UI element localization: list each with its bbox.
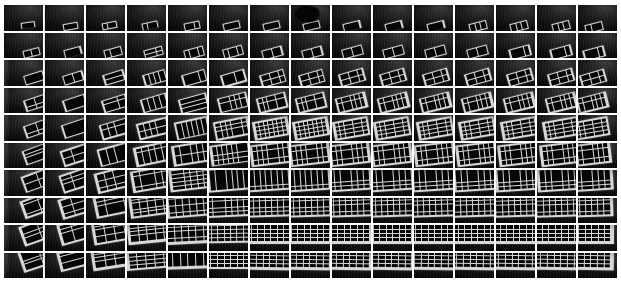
scene-background [250,33,289,59]
scene-background [496,143,535,169]
thumbnail-cell [578,225,617,251]
scene-background [537,225,576,251]
thumbnail-cell [127,253,166,279]
scene-background [127,60,166,86]
scene-background [373,143,412,169]
thumbnail-cell [537,33,576,59]
scene-background [455,143,494,169]
scene-background [332,143,371,169]
thumbnail-cell [4,170,43,196]
thumbnail-cell [4,225,43,251]
thumbnail-cell [250,60,289,86]
scene-background [373,60,412,86]
scene-background [578,170,617,196]
scene-background [414,253,453,279]
thumbnail-cell [209,60,248,86]
scene-background [86,60,125,86]
scene-background [127,115,166,141]
column-seam-divider [44,5,45,278]
scene-background [455,170,494,196]
thumbnail-cell [291,170,330,196]
scene-background [291,198,330,224]
scene-background [127,198,166,224]
scene-background [455,33,494,59]
thumbnail-cell [250,33,289,59]
thumbnail-cell [250,225,289,251]
scene-background [250,170,289,196]
thumbnail-cell [578,5,617,31]
scene-background [168,143,207,169]
thumbnail-cell [537,88,576,114]
light-streak [4,143,9,169]
thumbnail-cell [168,115,207,141]
scene-background [373,225,412,251]
scene-background [496,225,535,251]
thumbnail-cell [496,60,535,86]
thumbnail-cell [250,5,289,31]
thumbnail-cell [4,198,43,224]
scene-background [414,198,453,224]
scene-background [250,198,289,224]
thumbnail-cell [496,225,535,251]
scene-background [127,225,166,251]
scene-background [414,5,453,31]
thumbnail-cell [373,33,412,59]
thumbnail-cell [86,5,125,31]
thumbnail-cell [455,88,494,114]
thumbnail-cell [373,88,412,114]
thumbnail-cell [127,143,166,169]
thumbnail-cell [4,88,43,114]
thumbnail-cell [578,33,617,59]
thumbnail-cell [127,33,166,59]
thumbnail-cell [127,225,166,251]
light-streak [4,60,9,86]
thumbnail-cell [4,5,43,31]
scene-background [578,5,617,31]
thumbnail-cell [86,225,125,251]
thumbnail-cell [455,170,494,196]
thumbnail-cell [537,198,576,224]
scene-background [168,115,207,141]
thumbnail-cell [291,88,330,114]
scene-background [496,5,535,31]
scene-background [45,115,84,141]
scene-background [127,5,166,31]
thumbnail-cell [45,115,84,141]
scene-background [455,115,494,141]
scene-background [209,115,248,141]
scene-background [332,115,371,141]
scene-background [45,143,84,169]
thumbnail-cell [127,60,166,86]
scene-background [250,225,289,251]
scene-background [209,253,248,279]
scene-background [168,170,207,196]
thumbnail-cell [127,198,166,224]
scene-background [127,253,166,279]
scene-background [127,170,166,196]
thumbnail-cell [578,115,617,141]
scene-background [537,115,576,141]
thumbnail-cell [168,225,207,251]
scene-background [86,33,125,59]
thumbnail-cell [332,33,371,59]
thumbnail-cell [250,115,289,141]
thumbnail-cell [332,60,371,86]
thumbnail-cell [414,170,453,196]
scene-background [250,253,289,279]
scene-background [414,33,453,59]
scene-background [332,33,371,59]
scene-background [209,225,248,251]
scene-background [45,198,84,224]
scene-background [332,170,371,196]
thumbnail-cell [45,225,84,251]
scene-background [86,5,125,31]
scene-background [578,33,617,59]
thumbnail-cell [332,225,371,251]
thumbnail-cell [127,115,166,141]
scene-background [86,225,125,251]
thumbnail-cell [127,170,166,196]
thumbnail-cell [414,143,453,169]
scene-background [414,115,453,141]
thumbnail-cell [209,143,248,169]
scene-background [373,198,412,224]
